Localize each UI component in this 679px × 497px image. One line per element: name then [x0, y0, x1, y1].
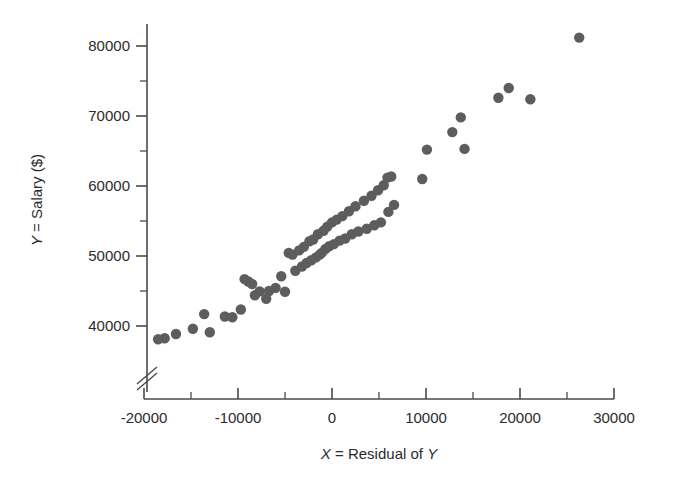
data-point	[422, 144, 432, 154]
data-point	[504, 83, 514, 93]
data-point	[447, 127, 457, 137]
data-point	[171, 329, 181, 339]
scatter-plot-svg: 4000050000600007000080000-20000-10000010…	[0, 0, 679, 497]
x-axis-title-text: = Residual of	[331, 445, 427, 462]
data-point	[159, 333, 169, 343]
data-point	[227, 312, 237, 322]
x-tick-label: 20000	[499, 409, 541, 426]
y-tick-label: 80000	[88, 37, 130, 54]
y-tick-label: 60000	[88, 177, 130, 194]
y-tick-label: 50000	[88, 247, 130, 264]
data-point	[459, 144, 469, 154]
data-point	[350, 201, 360, 211]
x-tick-label: -10000	[215, 409, 262, 426]
y-axis-title-text: = Salary ($)	[28, 154, 45, 236]
data-point	[417, 174, 427, 184]
data-point	[280, 287, 290, 297]
data-point	[493, 93, 503, 103]
data-point	[236, 304, 246, 314]
data-point	[376, 217, 386, 227]
x-tick-label: 10000	[405, 409, 447, 426]
data-point	[270, 283, 280, 293]
y-tick-label: 40000	[88, 317, 130, 334]
data-point	[386, 171, 396, 181]
x-tick-label: 0	[328, 409, 336, 426]
y-axis-title: Y = Salary ($)	[28, 154, 45, 246]
y-tick-label: 70000	[88, 107, 130, 124]
data-point	[247, 279, 257, 289]
data-point	[574, 32, 584, 42]
data-point	[525, 94, 535, 104]
x-tick-label: -20000	[121, 409, 168, 426]
data-point	[188, 324, 198, 334]
scatter-plot-figure: 4000050000600007000080000-20000-10000010…	[0, 0, 679, 497]
data-points-layer	[153, 32, 585, 344]
data-point	[276, 271, 286, 281]
data-point	[205, 327, 215, 337]
data-point	[389, 200, 399, 210]
x-axis-title-var2: Y	[427, 445, 438, 462]
axes-layer	[136, 24, 614, 399]
data-point	[456, 112, 466, 122]
x-tick-label: 30000	[593, 409, 635, 426]
data-point	[199, 309, 209, 319]
x-axis-title: X = Residual of Y	[320, 445, 438, 462]
